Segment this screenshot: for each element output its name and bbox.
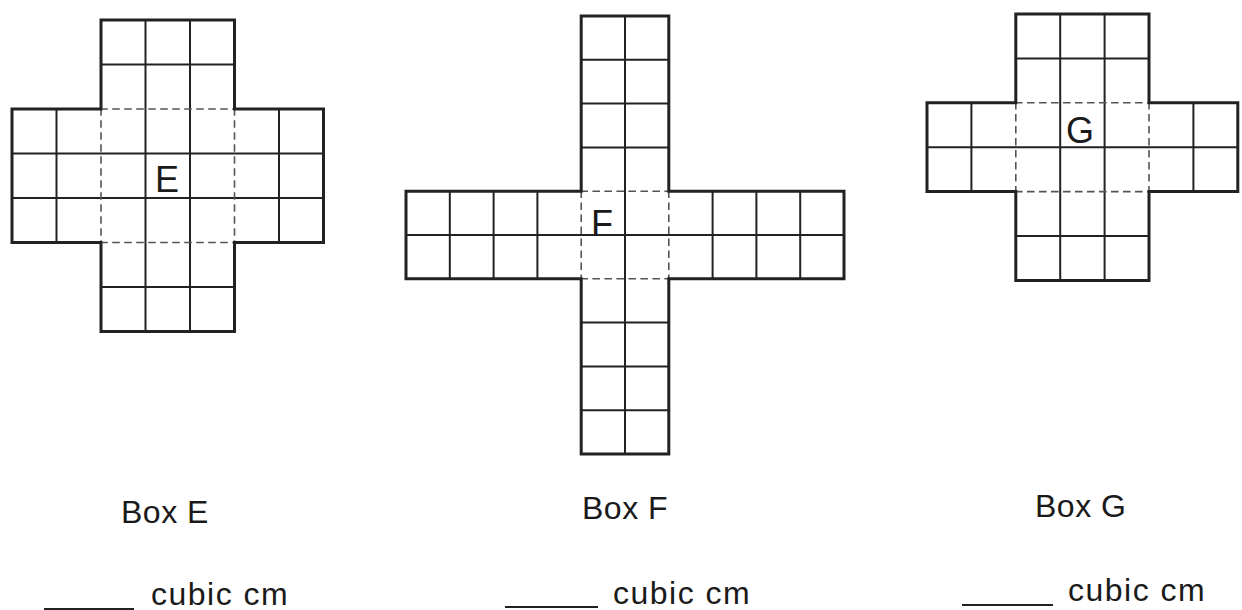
box-e-net-letter: E: [155, 162, 179, 198]
box-g-unit-label: cubic cm: [1068, 574, 1206, 606]
box-g-label: Box G: [1035, 490, 1126, 522]
box-f-label: Box F: [582, 492, 668, 524]
box-e-unit-label: cubic cm: [151, 578, 289, 610]
box-e-answer-blank[interactable]: [44, 608, 134, 610]
box-f-unit-label: cubic cm: [613, 577, 751, 609]
box-f-net: [402, 12, 848, 458]
box-f-answer-blank[interactable]: [505, 606, 598, 608]
box-g-answer-blank[interactable]: [962, 604, 1053, 606]
box-f-net-letter: F: [591, 206, 613, 242]
box-g-net-letter: G: [1066, 113, 1094, 149]
box-e-label: Box E: [121, 496, 209, 528]
